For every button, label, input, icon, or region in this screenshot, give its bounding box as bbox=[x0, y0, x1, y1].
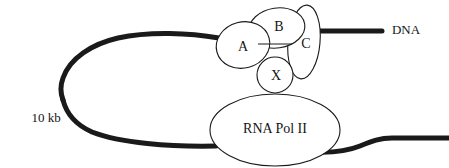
dna-loop-lower-arm bbox=[63, 100, 216, 146]
label-rna-pol-ii: RNA Pol II bbox=[243, 121, 307, 136]
label-factor-c: C bbox=[301, 36, 310, 51]
label-factor-a: A bbox=[238, 39, 249, 54]
diagram-canvas: A B C X RNA Pol II DNA 10 kb bbox=[0, 0, 449, 168]
label-dna: DNA bbox=[392, 22, 421, 37]
dna-loop-upper-arm bbox=[61, 33, 219, 100]
diagram-svg: A B C X RNA Pol II DNA 10 kb bbox=[0, 0, 449, 168]
label-factor-x: X bbox=[271, 68, 281, 83]
label-factor-b: B bbox=[274, 19, 283, 34]
label-10-kb: 10 kb bbox=[31, 110, 60, 125]
